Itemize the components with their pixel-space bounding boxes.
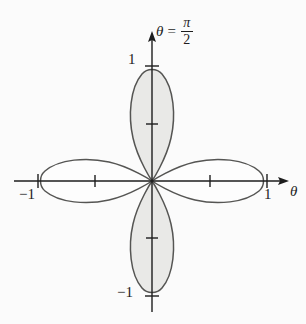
- polar-plot-canvas: [0, 0, 306, 324]
- theta-symbol: θ: [156, 24, 163, 39]
- pi-over-two-fraction: π 2: [181, 16, 193, 47]
- tick-label-y-top: 1: [128, 52, 136, 67]
- fraction-denominator: 2: [181, 32, 192, 47]
- fraction-numerator: π: [181, 16, 192, 31]
- tick-label-x-right: 1: [264, 187, 272, 202]
- polar-rose-figure: θ = π 2 1 −1 −1 1 θ: [0, 0, 306, 324]
- tick-label-y-bottom: −1: [117, 285, 133, 300]
- tick-label-x-left: −1: [19, 187, 35, 202]
- equals-sign: =: [167, 24, 175, 39]
- x-axis-title: θ: [290, 184, 297, 199]
- polar-axis-annotation: θ = π 2: [156, 16, 193, 47]
